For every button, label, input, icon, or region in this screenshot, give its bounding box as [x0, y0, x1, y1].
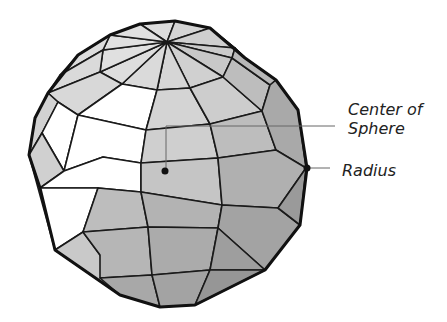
face	[148, 227, 218, 275]
radius-label: Radius	[342, 161, 396, 180]
center-label-line1: Center of	[348, 100, 438, 119]
radius-point	[304, 165, 311, 172]
center-label-line2: Sphere	[348, 119, 438, 138]
center-point	[162, 168, 169, 175]
face	[100, 275, 160, 307]
face	[141, 124, 218, 163]
center-of-sphere-label: Center of Sphere	[348, 100, 438, 138]
